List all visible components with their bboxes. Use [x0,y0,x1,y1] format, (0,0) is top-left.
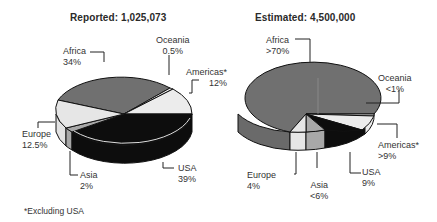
right-label-usa: USA9% [362,167,381,189]
right-label-africa: Africa>70% [266,35,289,57]
right-pie [238,62,381,150]
right-pie-side-asia [306,130,325,150]
footnote: *Excluding USA [24,206,84,216]
right-chart-title: Estimated: 4,500,000 [255,12,355,23]
left-label-americas: Americas*12% [186,67,227,89]
left-label-africa: Africa34% [63,46,86,68]
right-label-europe: Europe4% [247,170,276,192]
left-pie [56,77,192,163]
right-label-asia: Asia<6% [310,180,328,202]
left-label-asia: Asia2% [80,170,98,192]
left-label-europe: Europe12.5% [22,129,51,151]
right-label-oceania: Oceania<1% [378,73,412,95]
right-label-americas: Americas*>9% [378,140,419,162]
left-label-oceania: Oceania0.5% [156,35,190,57]
left-label-usa: USA39% [178,163,197,185]
left-chart-title: Reported: 1,025,073 [70,12,166,23]
right-pie-side-europe [290,132,306,150]
